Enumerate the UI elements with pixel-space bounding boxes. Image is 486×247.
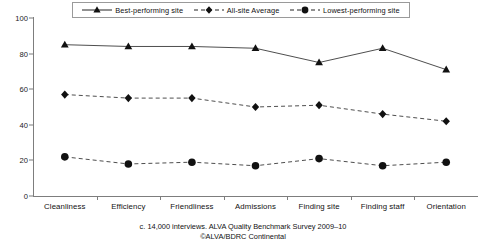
chart-container: Best-performing site All-site Average Lo… <box>0 0 486 247</box>
legend-item-all-site-average: All-site Average <box>194 5 280 15</box>
y-axis-tick-mark <box>29 89 33 90</box>
y-axis-tick-mark <box>29 124 33 125</box>
x-axis-tick-label: Admissions <box>235 202 276 211</box>
y-axis-tick-mark <box>29 53 33 54</box>
x-axis-tick-mark <box>160 196 161 200</box>
x-axis-tick-mark <box>351 196 352 200</box>
x-axis-tick-mark <box>97 196 98 200</box>
x-axis-tick-label: Efficiency <box>111 202 145 211</box>
x-axis-tick-mark <box>414 196 415 200</box>
x-axis-tick-label: Finding site <box>299 202 340 211</box>
y-axis-tick-label: 80 <box>0 49 28 58</box>
legend-item-best-performing-site: Best-performing site <box>82 5 183 15</box>
caption-line-2: ©ALVA/BDRC Continental <box>0 232 486 242</box>
x-axis-tick-label: Friendliness <box>170 202 213 211</box>
y-axis-tick-label: 20 <box>0 156 28 165</box>
plot-area <box>33 18 478 196</box>
x-axis <box>33 196 478 197</box>
caption-line-1: c. 14,000 interviews. ALVA Quality Bench… <box>0 222 486 232</box>
chart-legend: Best-performing site All-site Average Lo… <box>72 2 410 18</box>
y-axis-tick-label: 60 <box>0 85 28 94</box>
y-axis-tick-label: 0 <box>0 192 28 201</box>
x-axis-tick-mark <box>224 196 225 200</box>
legend-label-best-performing-site: Best-performing site <box>115 6 183 15</box>
x-axis-tick-label: Finding staff <box>361 202 405 211</box>
y-axis-tick-label: 100 <box>0 14 28 23</box>
legend-key-diamond-dashed <box>194 5 224 15</box>
legend-label-all-site-average: All-site Average <box>227 6 280 15</box>
legend-label-lowest-performing-site: Lowest-performing site <box>323 6 400 15</box>
y-axis-tick-mark <box>29 18 33 19</box>
y-axis-tick-mark <box>29 160 33 161</box>
chart-caption: c. 14,000 interviews. ALVA Quality Bench… <box>0 222 486 242</box>
x-axis-tick-label: Orientation <box>427 202 466 211</box>
legend-key-circle-dashed <box>290 5 320 15</box>
legend-item-lowest-performing-site: Lowest-performing site <box>290 5 400 15</box>
x-axis-tick-label: Cleanliness <box>44 202 85 211</box>
y-axis-tick-label: 40 <box>0 120 28 129</box>
x-axis-tick-mark <box>287 196 288 200</box>
legend-key-triangle-solid <box>82 5 112 15</box>
y-axis-tick-mark <box>29 196 33 197</box>
